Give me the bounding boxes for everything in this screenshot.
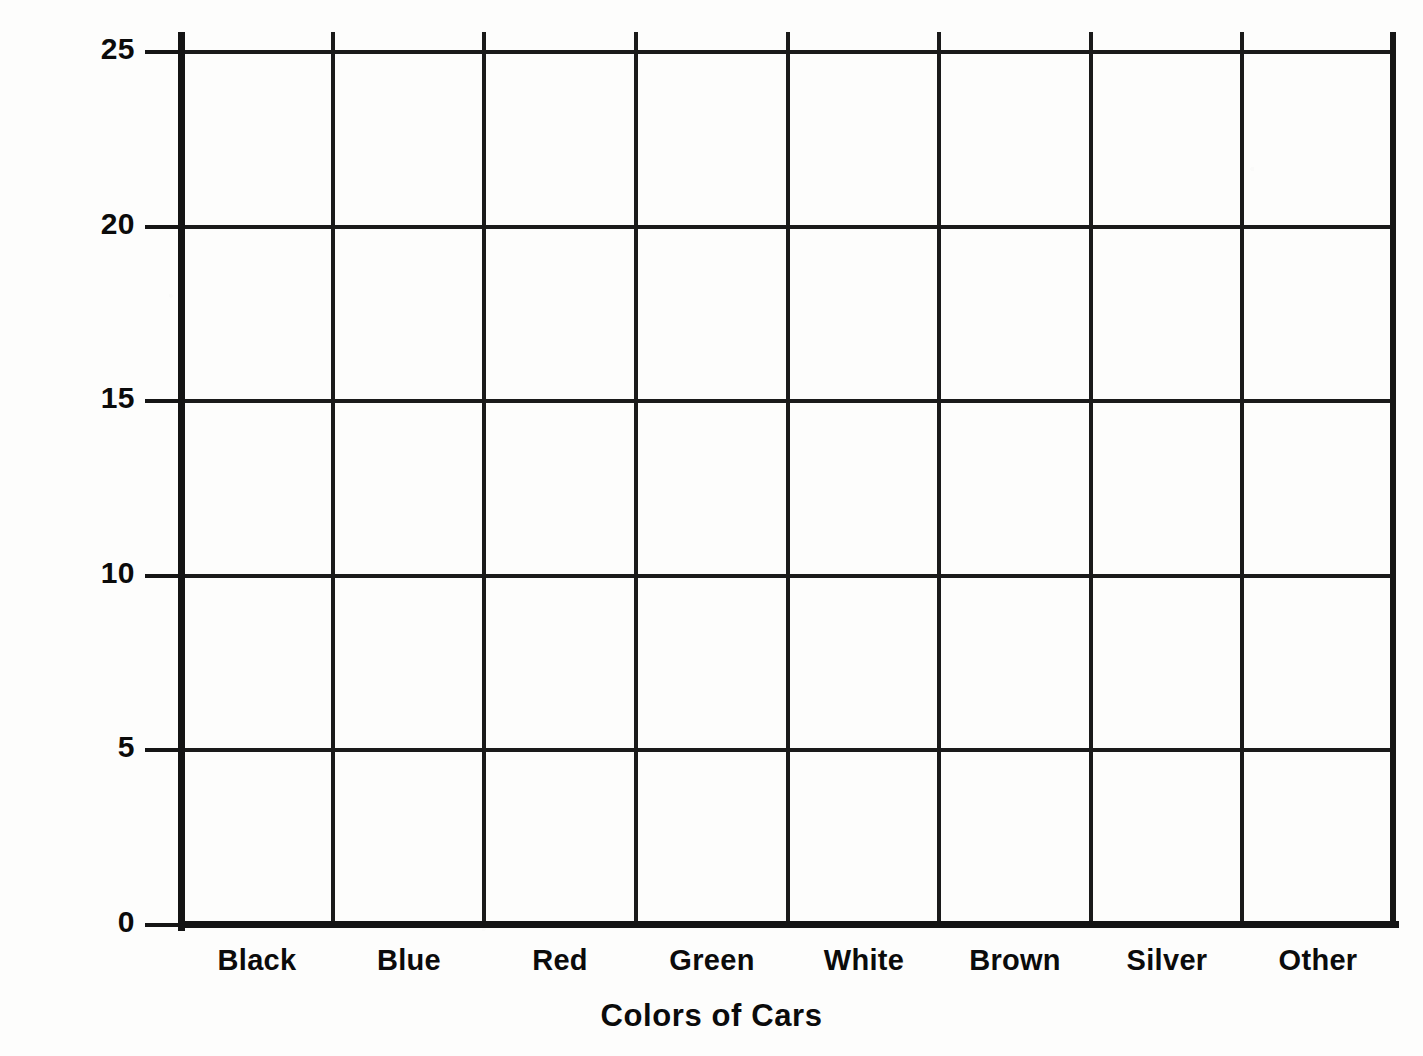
y-tick-label-15: 15	[35, 381, 135, 415]
x-category-label-other: Other	[1242, 944, 1394, 977]
y-tick-mark-20	[145, 225, 181, 229]
y-tick-mark-0	[145, 923, 181, 927]
gridline-vertical-7	[1240, 32, 1244, 925]
gridline-vertical-2	[482, 32, 486, 925]
y-tick-label-0: 0	[35, 905, 135, 939]
y-tick-mark-25	[145, 50, 181, 54]
y-tick-label-5: 5	[35, 730, 135, 764]
gridline-vertical-1	[331, 32, 335, 925]
x-axis-title: Colors of Cars	[0, 998, 1423, 1034]
gridline-vertical-6	[1089, 32, 1093, 925]
grid-right-border	[1390, 32, 1396, 927]
x-category-label-blue: Blue	[333, 944, 485, 977]
worksheet-page: 2520151050 BlackBlueRedGreenWhiteBrownSi…	[0, 0, 1423, 1056]
y-tick-mark-5	[145, 748, 181, 752]
gridline-vertical-3	[634, 32, 638, 925]
y-tick-mark-10	[145, 574, 181, 578]
x-axis-line	[178, 921, 1399, 928]
x-category-label-silver: Silver	[1091, 944, 1243, 977]
y-tick-mark-15	[145, 399, 181, 403]
x-category-label-red: Red	[484, 944, 636, 977]
x-category-label-black: Black	[181, 944, 333, 977]
gridline-vertical-5	[937, 32, 941, 925]
paper-texture-overlay	[0, 0, 1423, 1056]
y-tick-label-20: 20	[35, 207, 135, 241]
y-tick-label-25: 25	[35, 32, 135, 66]
x-category-label-brown: Brown	[939, 944, 1091, 977]
x-category-label-white: White	[788, 944, 940, 977]
gridline-vertical-4	[786, 32, 790, 925]
y-tick-label-10: 10	[35, 556, 135, 590]
x-category-label-green: Green	[636, 944, 788, 977]
y-axis-line	[178, 32, 185, 931]
